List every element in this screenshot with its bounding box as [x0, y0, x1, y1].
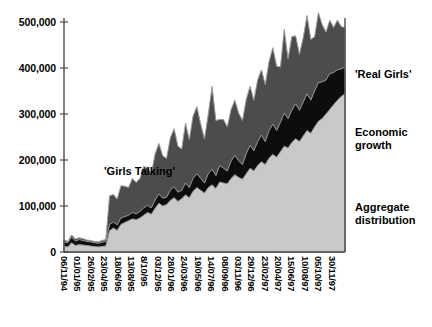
series-label-economic-growth: Economic growth — [355, 126, 408, 152]
series-label-economic-growth-line1: Economic — [355, 126, 408, 138]
stacked-area-chart: 500,000 400,000 300,000 200,000 100,000 … — [0, 0, 432, 327]
series-label-aggregate-line2: distribution — [355, 214, 416, 226]
x-axis-tick-label: 23/04/95 — [99, 256, 110, 291]
x-axis-tick-label: 29/12/96 — [246, 256, 257, 291]
x-axis-tick-label: 08/09/96 — [220, 256, 231, 291]
y-axis-tick-400000: 400,000 — [0, 62, 56, 74]
x-axis-tick-label: 14/07/96 — [206, 256, 217, 291]
x-axis-tick-label: 8/10/95 — [139, 256, 150, 286]
area-series-group — [64, 13, 345, 252]
annotation-girls-talking: 'Girls Talking' — [104, 165, 175, 177]
series-label-economic-growth-line2: growth — [355, 139, 392, 151]
x-axis-tick-label: 06/11/94 — [59, 256, 70, 291]
y-axis-tick-100000: 100,000 — [0, 200, 56, 212]
y-axis-tick-200000: 200,000 — [0, 154, 56, 166]
x-axis-tick-label: 28/01/96 — [166, 256, 177, 291]
series-label-aggregate-distribution: Aggregate distribution — [355, 201, 416, 227]
x-axis-tick-label: 13/08/95 — [126, 256, 137, 291]
x-axis-tick-label: 03/12/95 — [153, 256, 164, 291]
x-axis-tick-label: 15/06/97 — [286, 256, 297, 291]
x-axis-tick-label: 23/02/97 — [260, 256, 271, 291]
x-axis-tick-label: 30/11/97 — [327, 256, 338, 291]
x-axis-tick-label: 24/03/96 — [179, 256, 190, 291]
x-axis-tick-label: 10/08/97 — [300, 256, 311, 291]
x-axis-tick-label: 19/05/96 — [193, 256, 204, 291]
y-axis-tick-500000: 500,000 — [0, 16, 56, 28]
x-axis-tick-label: 05/10/97 — [313, 256, 324, 291]
y-axis-tick-300000: 300,000 — [0, 108, 56, 120]
series-label-aggregate-line1: Aggregate — [355, 201, 409, 213]
x-axis-tick-label: 01/01/95 — [72, 256, 83, 291]
x-axis-tick-label: 20/04/97 — [273, 256, 284, 291]
y-axis-tick-0: 0 — [0, 246, 56, 258]
x-axis-tick-label: 03/11/96 — [233, 256, 244, 291]
x-axis-tick-label: 26/02/95 — [86, 256, 97, 291]
series-label-real-girls: 'Real Girls' — [355, 68, 412, 81]
x-axis-tick-label: 18/06/95 — [113, 256, 124, 291]
